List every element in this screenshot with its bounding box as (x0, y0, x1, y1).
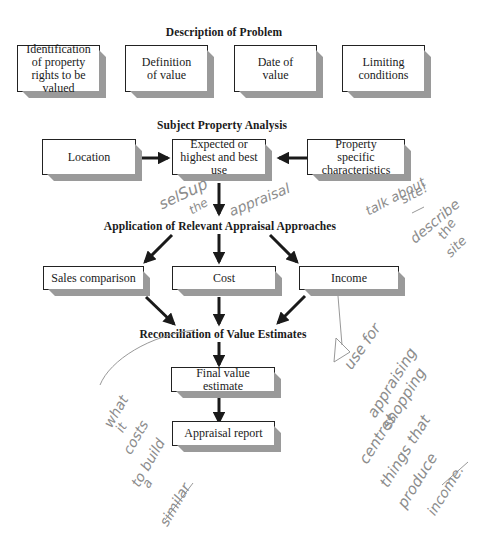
annotation-use-for: use for (340, 319, 385, 373)
handwriting-layer: selSup the appraisal talk about site! de… (0, 0, 492, 550)
annotation-appraisal: appraisal (227, 180, 293, 219)
annotation-it: it (112, 419, 130, 435)
annotation-similar: similar (156, 479, 194, 529)
pencil-line-from-income (338, 296, 342, 345)
pencil-dash-site (412, 207, 424, 213)
pencil-curve-to-cost (100, 330, 195, 385)
